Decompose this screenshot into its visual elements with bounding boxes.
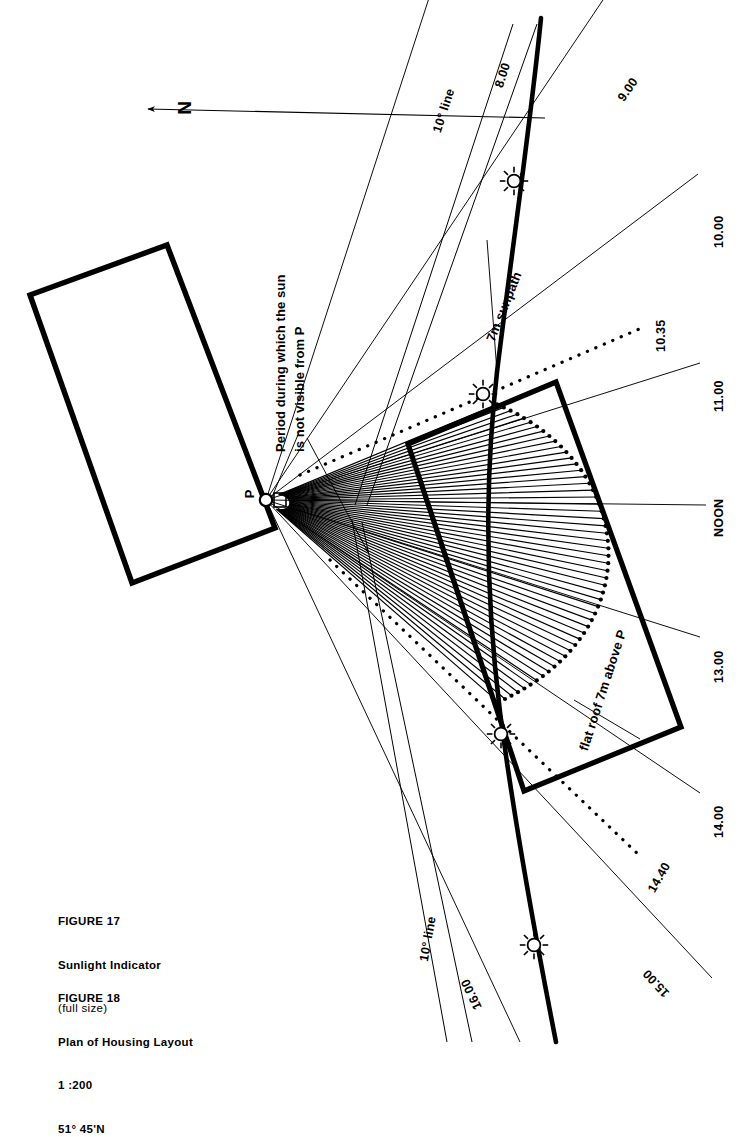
hatch-terminal-dot — [578, 637, 582, 641]
hatch-terminal-dot — [509, 409, 513, 413]
hatch-stroke — [281, 414, 517, 495]
figure-18-latitude: 51° 45'N — [58, 1122, 193, 1137]
hatch-terminal-dot — [515, 412, 519, 416]
hatch-terminal-dot — [603, 583, 607, 587]
obstruction-annotation-line1: Period during which the sun — [273, 275, 288, 452]
hatch-terminal-dot — [593, 611, 597, 615]
hour-label-10-00: 10.00 — [712, 216, 726, 248]
hatch-terminal-dot — [509, 694, 513, 698]
hatch-terminal-dot — [522, 686, 526, 690]
hour-label-14-00: 14.00 — [712, 806, 726, 838]
hatch-terminal-dot — [541, 674, 545, 678]
hatch-terminal-dot — [559, 444, 563, 448]
hatch-terminal-dot — [590, 618, 594, 622]
hatch-terminal-dot — [570, 456, 574, 460]
hatch-stroke — [283, 427, 537, 496]
sun-marker-14-40 — [487, 720, 515, 748]
hour-line-9-00 — [266, 0, 700, 500]
hatch-terminal-dot — [552, 665, 556, 669]
figure-17-title: FIGURE 17 — [58, 914, 161, 929]
sun-marker-afternoon — [520, 931, 548, 959]
hour-label-10-35: 10.35 — [654, 320, 668, 352]
hatch-terminal-dot — [522, 416, 526, 420]
hour-label-13-00: 13.00 — [712, 651, 726, 683]
figure-18-scale: 1 :200 — [58, 1078, 193, 1093]
hatch-terminal-dot — [529, 420, 533, 424]
hatch-terminal-dot — [583, 475, 587, 479]
ten-degree-line-bottom — [352, 520, 447, 1042]
hatch-terminal-dot — [606, 561, 610, 565]
sight-line-10-35 — [300, 327, 644, 475]
hatch-terminal-dot — [553, 439, 557, 443]
hatch-terminal-dot — [541, 429, 545, 433]
sun-marker-morning — [500, 167, 528, 195]
hatch-stroke — [285, 509, 571, 651]
hatch-terminal-dot — [586, 625, 590, 629]
north-arrow — [148, 109, 545, 118]
hatch-terminal-dot — [547, 434, 551, 438]
hour-label-noon: NOON — [712, 499, 726, 537]
hatch-terminal-dot — [503, 697, 507, 701]
figure-18-caption: FIGURE 18 Plan of Housing Layout 1 :200 … — [58, 962, 193, 1137]
sun-marker-10-35 — [469, 380, 497, 408]
hatch-terminal-dot — [596, 605, 600, 609]
hatch-terminal-dot — [535, 424, 539, 428]
hatch-stroke — [288, 507, 595, 613]
point-p-label: P — [242, 490, 257, 499]
hatch-stroke — [278, 510, 512, 696]
hatch-terminal-dot — [529, 683, 533, 687]
hatch-terminal-dot — [601, 591, 605, 595]
obstruction-annotation-line2: is not visible from P — [292, 326, 307, 452]
hatch-terminal-dot — [558, 660, 562, 664]
hatch-terminal-dot — [535, 678, 539, 682]
figure-18-title: FIGURE 18 — [58, 991, 193, 1006]
hatch-terminal-dot — [599, 598, 603, 602]
hatch-terminal-dot — [606, 554, 610, 558]
hatch-stroke — [283, 510, 555, 667]
hatch-terminal-dot — [547, 669, 551, 673]
hatch-terminal-dot — [563, 654, 567, 658]
figure-18-subtitle: Plan of Housing Layout — [58, 1035, 193, 1050]
building-left — [30, 245, 275, 583]
hatch-terminal-dot — [605, 569, 609, 573]
hour-label-11-00: 11.00 — [712, 380, 726, 412]
hatch-terminal-dot — [516, 690, 520, 694]
hatch-terminal-dot — [579, 468, 583, 472]
hatch-terminal-dot — [568, 649, 572, 653]
hatch-terminal-dot — [573, 643, 577, 647]
hatch-terminal-dot — [606, 546, 610, 550]
hatch-terminal-dot — [564, 450, 568, 454]
hatch-terminal-dot — [604, 576, 608, 580]
hatch-terminal-dot — [606, 539, 610, 543]
hatch-terminal-dot — [582, 631, 586, 635]
hatch-terminal-dot — [574, 462, 578, 466]
hatch-stroke — [281, 510, 537, 681]
north-label: N — [174, 101, 196, 115]
